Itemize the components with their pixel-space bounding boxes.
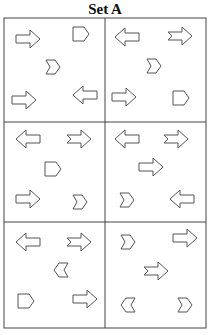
block-arrow-left-icon [73,86,97,104]
chevron-right-icon [121,235,135,249]
block-arrow-left-icon [115,130,139,148]
chevron-right-icon [46,60,60,74]
chevron-right-icon [120,193,134,207]
chevron-right-icon [178,298,192,312]
cell-r1-c1 [115,130,194,208]
pentagon-right-icon [73,27,89,41]
chevron-right-icon [73,195,87,209]
block-arrow-left-icon [115,28,139,46]
block-arrow-right-icon [139,158,163,176]
notched-arrow-right-icon [164,130,188,148]
notched-arrow-right-icon [144,262,168,280]
pentagon-right-icon [18,294,34,308]
notched-arrow-right-icon [67,233,91,251]
pentagon-right-icon [173,91,189,105]
notched-arrow-right-icon [168,27,192,45]
block-arrow-right-icon [112,88,136,106]
chevron-right-icon [147,59,161,73]
block-arrow-left-icon [16,130,40,148]
cell-r2-c0 [16,233,97,308]
chevron-left-icon [54,263,68,277]
block-arrow-right-icon [16,190,40,208]
block-arrow-right-icon [12,91,36,109]
block-arrow-right-icon [73,290,97,308]
chevron-left-icon [121,298,135,312]
block-arrow-right-icon [173,229,197,247]
pentagon-right-icon [45,162,61,176]
notched-arrow-right-icon [67,130,91,148]
cell-r0-c1 [112,27,192,106]
block-arrow-left-icon [170,190,194,208]
cell-r1-c0 [16,130,91,209]
shape-grid [0,0,210,335]
cell-r0-c0 [12,27,97,109]
block-arrow-left-icon [16,233,40,251]
cell-r2-c1 [121,229,197,312]
block-arrow-right-icon [16,30,40,48]
